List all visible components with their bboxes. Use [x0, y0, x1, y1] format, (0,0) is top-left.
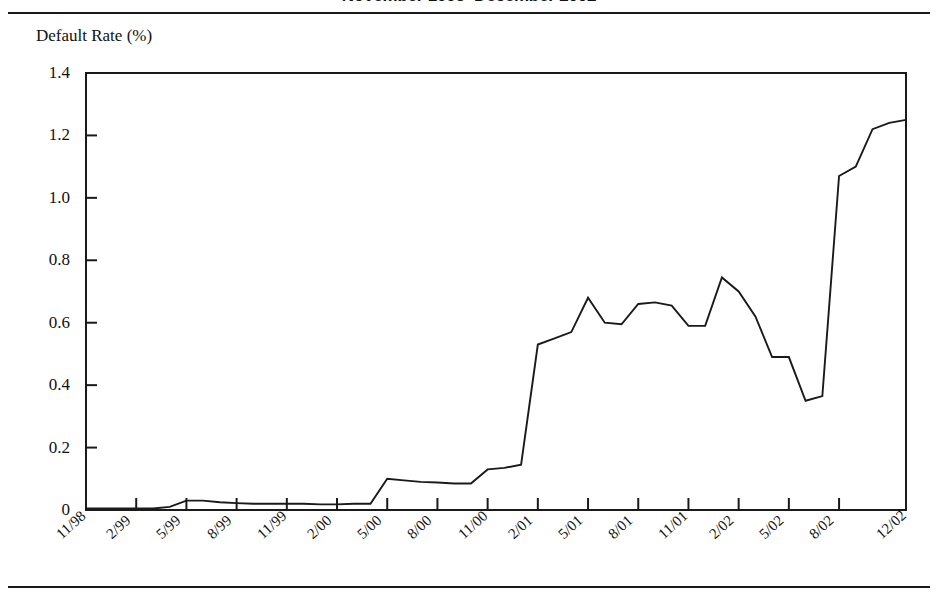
y-tick-label: 0.4: [24, 375, 70, 395]
plot-area: [0, 0, 938, 603]
plot-frame: [86, 73, 906, 510]
y-tick-marks: [86, 73, 97, 510]
figure-default-rate-chart: November 1998–December 2002 Default Rate…: [0, 0, 938, 603]
y-tick-label: 0: [24, 500, 70, 520]
x-tick-marks: [86, 498, 906, 510]
y-tick-label: 1.0: [24, 188, 70, 208]
y-tick-label: 0.2: [24, 438, 70, 458]
y-tick-label: 0.8: [24, 250, 70, 270]
y-tick-label: 1.2: [24, 125, 70, 145]
data-series-line: [86, 120, 906, 509]
y-tick-label: 0.6: [24, 313, 70, 333]
axes: [86, 73, 906, 510]
y-tick-label: 1.4: [24, 63, 70, 83]
